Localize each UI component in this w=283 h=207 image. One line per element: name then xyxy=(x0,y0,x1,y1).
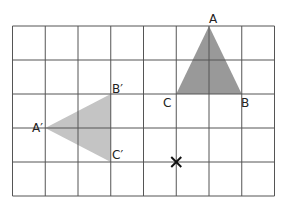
vertex-label: C xyxy=(163,96,171,110)
vertex-label: A xyxy=(209,12,218,26)
vertex-label: B′ xyxy=(112,82,123,96)
grid xyxy=(13,26,275,196)
vertex-label: C′ xyxy=(112,148,123,162)
rotation-diagram: ABCA′B′C′ xyxy=(0,0,283,207)
vertex-label: A′ xyxy=(32,121,43,135)
vertex-label: B xyxy=(241,96,249,110)
